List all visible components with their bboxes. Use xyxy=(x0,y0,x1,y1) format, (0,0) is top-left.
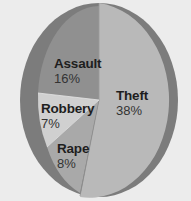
label-robbery-name: Robbery xyxy=(41,101,94,116)
label-assault: Assault 16% xyxy=(54,56,101,86)
pie-chart: Assault 16% Theft 38% Robbery 7% Rape 8% xyxy=(0,0,191,201)
label-rape-name: Rape xyxy=(57,141,89,156)
label-assault-name: Assault xyxy=(54,56,101,71)
label-theft: Theft 38% xyxy=(116,88,148,118)
label-assault-pct: 16% xyxy=(54,71,101,86)
label-theft-name: Theft xyxy=(116,88,148,103)
label-rape: Rape 8% xyxy=(57,141,89,171)
label-rape-pct: 8% xyxy=(57,156,89,171)
pie-graphic xyxy=(0,0,191,201)
label-theft-pct: 38% xyxy=(116,103,148,118)
label-robbery-pct: 7% xyxy=(41,116,94,131)
label-robbery: Robbery 7% xyxy=(41,101,94,131)
